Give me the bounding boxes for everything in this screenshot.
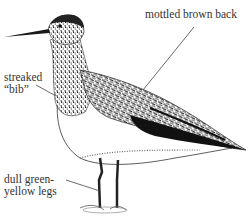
bird-head [4,14,84,44]
label-streaked-bib: streaked “bib” [4,71,42,95]
label-legs-line2: yellow legs [4,185,57,197]
leader-line-back [143,27,194,90]
label-bib-line1: streaked [4,71,42,83]
leader-line-legs [66,180,100,191]
label-legs: dull green- yellow legs [4,173,57,197]
label-legs-line1: dull green- [4,173,57,185]
bird-legs [80,158,127,213]
label-mottled-brown-back: mottled brown back [145,8,237,20]
bird-body [50,30,246,164]
label-bib-line2: “bib” [4,83,42,95]
label-back-line1: mottled brown back [145,8,237,20]
